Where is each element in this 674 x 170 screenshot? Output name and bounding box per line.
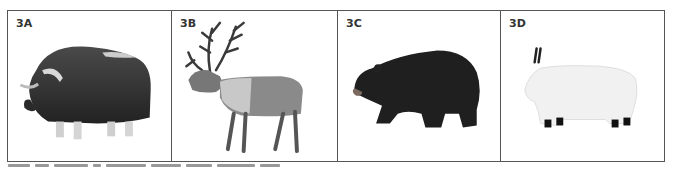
- caribou-image: [172, 11, 337, 161]
- panel-3c: 3C: [338, 11, 501, 161]
- figure-grid: 3A 3B: [7, 10, 665, 162]
- figure-caption-clipped: [8, 164, 408, 170]
- black-bear-image: [338, 11, 500, 161]
- caption-text-fragment: [8, 164, 408, 167]
- panel-3a: 3A: [8, 11, 172, 161]
- mountain-goat-image: [501, 11, 664, 161]
- musk-ox-image: [8, 11, 171, 161]
- panel-3b: 3B: [172, 11, 338, 161]
- panel-3d: 3D: [501, 11, 664, 161]
